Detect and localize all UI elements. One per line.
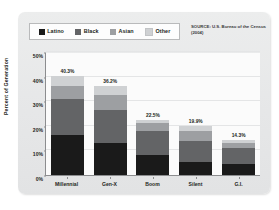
bar-total-label: 22.5% [136, 113, 169, 118]
bar-segment-black [51, 99, 84, 134]
bar-segment-other [94, 86, 127, 95]
legend-item-asian: Asian [110, 29, 134, 35]
bar-total-label: 36.2% [94, 79, 127, 84]
x-axis-category: Silent [179, 177, 212, 193]
bar-total-label: 40.3% [51, 69, 84, 74]
bar-segment-asian [179, 131, 212, 141]
x-axis-tick-label: Boom [136, 181, 169, 187]
legend-item-black: Black [75, 29, 98, 35]
x-axis-tick-label: Millennial [50, 181, 83, 187]
x-axis-tick [196, 177, 197, 179]
x-axis-tick-label: Silent [179, 181, 212, 187]
source-note: SOURCE: U.S. Bureau of the Census (2004) [191, 24, 267, 37]
bar-segment-asian [51, 86, 84, 99]
legend-item-other: Other [145, 28, 170, 36]
x-axis-tick [110, 177, 111, 179]
x-axis-tick-label: G.I. [222, 181, 255, 187]
x-axis-tick [67, 177, 68, 179]
legend-swatch-other [145, 28, 153, 36]
chart-figure: Latino Black Asian Other SOURCE: U.S. Bu… [0, 0, 279, 210]
x-axis-category: G.I. [222, 177, 255, 193]
bar-silent: 19.9% [179, 53, 212, 175]
y-axis-title: Percent of Generation [3, 58, 9, 115]
legend-swatch-asian [110, 29, 116, 35]
gridline [46, 51, 260, 52]
plot-area: 0%10%20%30%40%50% 40.3%36.2%22.5%19.9%14… [45, 53, 260, 176]
bar-segment-black [222, 148, 255, 164]
bar-segment-black [94, 110, 127, 143]
x-axis-labels: MillennialGen-XBoomSilentG.I. [45, 177, 260, 193]
x-axis-tick-label: Gen-X [93, 181, 126, 187]
bar-segment-black [136, 131, 169, 155]
legend-item-latino: Latino [39, 29, 64, 35]
bar-segment-black [179, 141, 212, 163]
bar-segment-other [51, 76, 84, 86]
legend-label-latino: Latino [47, 29, 64, 34]
bar-g-i: 14.3% [222, 53, 255, 175]
legend-swatch-latino [39, 29, 45, 35]
bar-gen-x: 36.2% [94, 53, 127, 175]
legend-label-black: Black [84, 29, 99, 34]
bar-series-container: 40.3%36.2%22.5%19.9%14.3% [46, 53, 260, 175]
x-axis-category: Boom [136, 177, 169, 193]
x-axis-tick [153, 177, 154, 179]
legend-label-asian: Asian [118, 29, 133, 34]
x-axis-tick [239, 177, 240, 179]
bar-total-label: 19.9% [179, 119, 212, 124]
bar-total-label: 14.3% [222, 133, 255, 138]
bar-millennial: 40.3% [51, 53, 84, 175]
legend-label-other: Other [155, 29, 170, 34]
chart-legend: Latino Black Asian Other [29, 23, 180, 40]
bar-segment-asian [94, 95, 127, 110]
x-axis-category: Millennial [50, 177, 83, 193]
bar-boom: 22.5% [136, 53, 169, 175]
bar-segment-latino [179, 162, 212, 175]
bar-segment-latino [94, 143, 127, 175]
bar-segment-latino [136, 155, 169, 175]
bar-segment-latino [222, 164, 255, 175]
bar-segment-asian [136, 123, 169, 131]
bar-segment-latino [51, 135, 84, 175]
legend-swatch-black [75, 29, 81, 35]
x-axis-category: Gen-X [93, 177, 126, 193]
